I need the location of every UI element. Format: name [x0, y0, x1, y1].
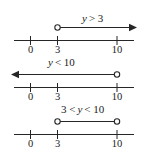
number-line-panel-greater-than-3: y> 3 0 3 10 — [0, 0, 142, 53]
open-endpoint-3 — [55, 119, 60, 124]
open-endpoint-3 — [55, 25, 60, 30]
inequality-label-3: 3 <y< 10 — [61, 103, 105, 115]
inequality-label-2: y< 10 — [47, 56, 75, 68]
arrow-head-right-1 — [129, 24, 137, 31]
inequality-label-1: y> 3 — [81, 12, 104, 24]
number-line-panel-between-3-and-10: 3 <y< 10 0 3 10 — [0, 94, 142, 147]
tick-label-10: 10 — [112, 138, 123, 147]
tick-label-3: 3 — [55, 138, 60, 147]
open-endpoint-10 — [114, 119, 119, 124]
number-line-inequality-figure: y> 3 0 3 10 y< 10 — [0, 0, 142, 159]
tick-label-0: 0 — [28, 138, 33, 147]
open-endpoint-10 — [114, 72, 119, 77]
arrow-head-left-2 — [11, 71, 19, 78]
